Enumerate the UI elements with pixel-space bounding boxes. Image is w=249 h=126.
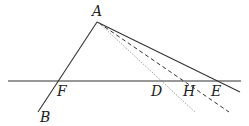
label-E: E	[210, 83, 221, 99]
label-B: B	[39, 109, 50, 125]
label-D: D	[150, 83, 162, 99]
geometry-diagram: A B F D H E	[0, 0, 249, 126]
ray-AH-dashed	[99, 23, 229, 112]
segment-AB	[38, 22, 97, 112]
label-H: H	[182, 83, 196, 99]
ray-AD-dotted	[99, 23, 196, 113]
label-A: A	[90, 3, 102, 19]
label-F: F	[56, 83, 68, 99]
